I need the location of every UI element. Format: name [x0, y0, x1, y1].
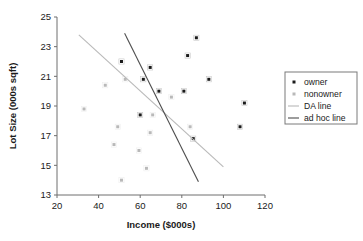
data-point: [137, 149, 140, 152]
data-point: [149, 131, 152, 134]
data-point: [239, 125, 242, 128]
y-tick-label: 19: [40, 100, 51, 111]
x-tick-label: 40: [93, 200, 104, 211]
y-tick-label: 13: [40, 189, 51, 200]
axes: 1315171921232520406080100120: [40, 11, 273, 211]
series-nonowner: [81, 77, 192, 183]
legend-label: owner: [304, 77, 328, 87]
data-point: [139, 113, 142, 116]
data-point: [120, 60, 123, 63]
fit-lines-group: [79, 33, 224, 181]
scatter-chart-figure: 1315171921232520406080100120 Income ($00…: [0, 0, 363, 241]
legend-label: DA line: [304, 101, 331, 111]
data-point: [207, 78, 210, 81]
data-point: [189, 125, 192, 128]
data-point: [112, 143, 115, 146]
legend: ownernonownerDA linead hoc line: [285, 72, 357, 124]
data-series-group: [81, 35, 247, 183]
x-tick-label: 60: [135, 200, 146, 211]
data-point: [145, 167, 148, 170]
y-tick-label: 23: [40, 41, 51, 52]
fit-line-da-line: [79, 35, 224, 167]
data-point: [243, 102, 246, 105]
y-tick-label: 17: [40, 130, 51, 141]
data-point: [195, 36, 198, 39]
data-point: [151, 113, 154, 116]
data-point: [116, 125, 119, 128]
x-tick-label: 20: [52, 200, 63, 211]
data-point: [149, 66, 152, 69]
x-tick-label: 120: [257, 200, 273, 211]
plot-canvas: 1315171921232520406080100120 Income ($00…: [0, 0, 363, 241]
data-point: [104, 84, 107, 87]
data-point: [83, 107, 86, 110]
legend-marker-icon: [293, 93, 296, 96]
y-tick-label: 25: [40, 11, 51, 22]
x-tick-label: 80: [177, 200, 188, 211]
legend-label: ad hoc line: [304, 113, 346, 123]
data-point: [120, 179, 123, 182]
y-tick-label: 15: [40, 160, 51, 171]
data-point: [186, 54, 189, 57]
data-point: [170, 96, 173, 99]
y-tick-label: 21: [40, 71, 51, 82]
data-point: [182, 90, 185, 93]
y-axis-title: Lot Size (000s sqft): [7, 63, 18, 150]
data-point: [142, 78, 145, 81]
x-axis-title: Income ($000s): [127, 219, 196, 230]
x-tick-label: 100: [215, 200, 231, 211]
legend-label: nonowner: [304, 89, 342, 99]
data-point: [157, 90, 160, 93]
legend-marker-icon: [293, 81, 296, 84]
